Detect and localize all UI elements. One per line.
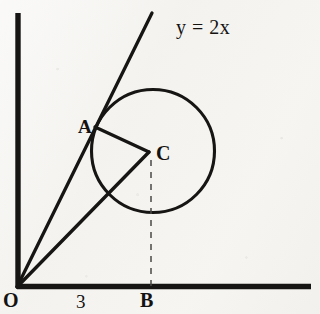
point-b-label: B <box>140 290 153 310</box>
ray-y-equals-2x <box>17 13 152 287</box>
ray-o-to-c <box>17 152 149 287</box>
segment-a-to-c <box>95 127 149 152</box>
origin-label: O <box>3 290 19 310</box>
geometry-figure: y = 2x A C O 3 B <box>0 0 320 314</box>
line-equation-label: y = 2x <box>176 17 230 37</box>
point-c-label: C <box>156 143 170 163</box>
point-a-label: A <box>78 117 92 136</box>
x-axis-tick-3-label: 3 <box>76 292 86 311</box>
